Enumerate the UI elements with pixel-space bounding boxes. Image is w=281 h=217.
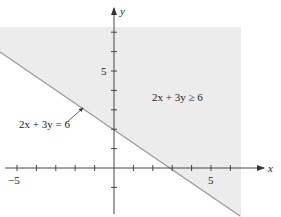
x-axis-label: x bbox=[267, 162, 273, 174]
y-axis-label: y bbox=[119, 5, 125, 17]
y-tick-label-5: 5 bbox=[101, 65, 107, 77]
line-label: 2x + 3y = 6 bbox=[19, 118, 70, 130]
x-tick-label-neg5: −5 bbox=[8, 174, 20, 186]
region-label: 2x + 3y ≥ 6 bbox=[152, 91, 203, 103]
x-tick-label-5: 5 bbox=[208, 174, 214, 186]
plot-svg: y x −5 5 5 2x + 3y ≥ 6 2x + 3y = 6 bbox=[0, 0, 281, 217]
inequality-graph: y x −5 5 5 2x + 3y ≥ 6 2x + 3y = 6 bbox=[0, 0, 281, 217]
